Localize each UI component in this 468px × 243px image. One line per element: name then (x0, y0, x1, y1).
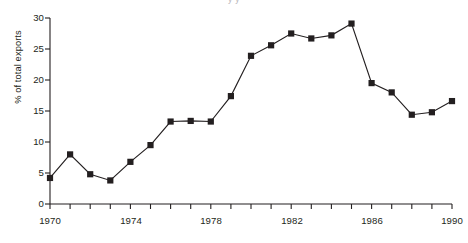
data-point-marker (67, 151, 73, 157)
data-point-marker (348, 20, 354, 26)
data-point-marker (268, 42, 274, 48)
data-point-marker (328, 32, 334, 38)
x-tick-marks (50, 204, 452, 209)
data-point-marker (208, 118, 214, 124)
data-point-marker (147, 142, 153, 148)
data-point-marker (429, 109, 435, 115)
data-point-marker (308, 35, 314, 41)
data-point-marker (87, 171, 93, 177)
data-point-marker (188, 118, 194, 124)
data-point-marker (288, 30, 294, 36)
data-series-markers (47, 20, 455, 183)
data-point-marker (228, 93, 234, 99)
data-point-marker (127, 159, 133, 165)
data-point-marker (369, 80, 375, 86)
data-point-marker (449, 98, 455, 104)
data-point-marker (248, 53, 254, 59)
data-point-marker (168, 118, 174, 124)
data-point-marker (389, 89, 395, 95)
data-point-marker (47, 175, 53, 181)
plot-area (0, 0, 468, 243)
data-point-marker (107, 177, 113, 183)
data-point-marker (409, 112, 415, 118)
data-series-line (50, 24, 452, 181)
chart-figure: y y % of total exports 30 25 20 15 10 5 … (0, 0, 468, 243)
axis-lines (50, 18, 452, 204)
